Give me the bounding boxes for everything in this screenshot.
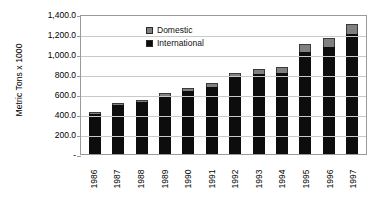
bar-segment-domestic[interactable] — [346, 24, 358, 35]
x-axis-tick-slot: 1988 — [135, 157, 147, 199]
bar-1995[interactable] — [299, 44, 311, 154]
y-axis-tick-mark-line — [77, 16, 81, 17]
black-swatch-icon — [146, 40, 153, 47]
bar-1997[interactable] — [346, 24, 358, 155]
bar-1993[interactable] — [253, 69, 265, 154]
bar-1989[interactable] — [159, 93, 171, 154]
x-axis-tick-slot: 1989 — [159, 157, 171, 199]
legend-item-international[interactable]: International — [146, 37, 204, 50]
y-axis-tick-label: 1,400.0 — [48, 10, 76, 20]
y-axis-tick-mark — [77, 36, 81, 37]
bar-segment-international[interactable] — [89, 114, 101, 155]
bar-segment-international[interactable] — [112, 105, 124, 154]
x-axis-tick-label: 1988 — [136, 170, 146, 189]
gray-swatch-icon — [146, 27, 153, 34]
bar-1990[interactable] — [182, 88, 194, 154]
y-axis-tick-label: - — [73, 150, 76, 160]
bar-segment-domestic[interactable] — [299, 44, 311, 52]
bar-1987[interactable] — [112, 103, 124, 154]
x-axis-tick-slot: 1996 — [324, 157, 336, 199]
x-axis-tick-slot: 1993 — [253, 157, 265, 199]
gridline — [81, 136, 366, 137]
y-axis-tick-mark — [77, 96, 81, 97]
bar-1988[interactable] — [136, 100, 148, 155]
bar-segment-domestic[interactable] — [323, 38, 335, 47]
x-axis-tick-label: 1990 — [183, 170, 193, 189]
y-axis-tick-label: 1,000.0 — [48, 50, 76, 60]
y-axis-tick-mark — [81, 16, 366, 17]
x-axis-tick-label: 1997 — [348, 170, 358, 189]
y-axis-tick-label: 600.0 — [55, 90, 76, 100]
bar-segment-international[interactable] — [182, 91, 194, 154]
y-axis-tick-label: 1,200.0 — [48, 30, 76, 40]
bar-1986[interactable] — [89, 112, 101, 155]
x-axis-tick-slot: 1991 — [206, 157, 218, 199]
x-axis-tick-labels: 1986198719881989199019911992199319941995… — [80, 157, 367, 199]
x-axis-tick-slot: 1992 — [229, 157, 241, 199]
legend-item-domestic[interactable]: Domestic — [146, 24, 204, 37]
gridline — [81, 56, 366, 57]
x-axis-tick-label: 1986 — [89, 170, 99, 189]
y-axis-tick-label: 800.0 — [55, 70, 76, 80]
x-axis-tick-label: 1989 — [160, 170, 170, 189]
x-axis-tick-slot: 1986 — [88, 157, 100, 199]
y-axis-tick-mark — [77, 76, 81, 77]
x-axis-tick-label: 1994 — [277, 170, 287, 189]
y-axis-tick-mark — [77, 56, 81, 57]
x-axis-tick-label: 1995 — [301, 170, 311, 189]
x-axis-tick-label: 1991 — [207, 170, 217, 189]
bar-1992[interactable] — [229, 73, 241, 154]
x-axis-tick-label: 1996 — [325, 170, 335, 189]
x-axis-tick-label: 1987 — [112, 170, 122, 189]
gridline — [81, 36, 366, 37]
y-axis-tick-label: 400.0 — [55, 110, 76, 120]
bar-1994[interactable] — [276, 67, 288, 155]
x-axis-tick-slot: 1994 — [276, 157, 288, 199]
gridline — [81, 76, 366, 77]
x-axis-tick-label: 1992 — [230, 170, 240, 189]
plot-area — [80, 15, 367, 155]
y-axis-tick-mark — [77, 136, 81, 137]
gridline — [81, 116, 366, 117]
legend-item-label: Domestic — [157, 24, 192, 37]
x-axis-tick-slot: 1990 — [182, 157, 194, 199]
legend-item-label: International — [157, 37, 204, 50]
bar-segment-international[interactable] — [276, 73, 288, 154]
x-axis-tick-slot: 1997 — [347, 157, 359, 199]
chart-legend: DomesticInternational — [146, 24, 204, 50]
bar-segment-international[interactable] — [323, 47, 335, 155]
gridline — [81, 96, 366, 97]
bar-segment-international[interactable] — [159, 96, 171, 155]
bar-1991[interactable] — [206, 83, 218, 154]
y-axis-tick-mark — [77, 116, 81, 117]
y-axis-tick-label: 200.0 — [55, 130, 76, 140]
x-axis-tick-slot: 1995 — [300, 157, 312, 199]
bar-segment-international[interactable] — [253, 74, 265, 155]
bar-segment-international[interactable] — [299, 52, 311, 154]
bar-chart: Metric Tons x 1000 1,400.01,200.01,000.0… — [0, 0, 380, 200]
bar-segment-international[interactable] — [136, 102, 148, 154]
x-axis-tick-slot: 1987 — [111, 157, 123, 199]
y-axis-tick-labels: 1,400.01,200.01,000.0800.0600.0400.0200.… — [18, 0, 76, 200]
x-axis-tick-label: 1993 — [254, 170, 264, 189]
